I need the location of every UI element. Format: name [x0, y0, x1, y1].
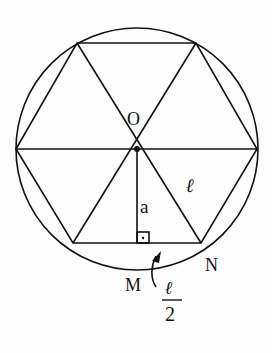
diagonal-top-left-to-bottom-right	[77, 43, 201, 243]
diagram-drawing	[0, 0, 272, 353]
hexagon-diagram: O a ℓ M N ℓ 2	[0, 0, 272, 353]
label-apothem-a: a	[140, 197, 148, 216]
label-point-m: M	[125, 276, 141, 294]
pointer-arrowhead	[152, 251, 161, 263]
label-half-side-denominator: 2	[165, 304, 175, 324]
diagonal-top-right-to-bottom-left	[73, 43, 196, 243]
label-side-l: ℓ	[186, 176, 194, 195]
center-point	[134, 146, 140, 152]
label-point-n: N	[205, 256, 218, 274]
label-center-o: O	[127, 110, 140, 128]
label-half-side-numerator: ℓ	[165, 279, 173, 297]
right-angle-dot	[142, 237, 144, 239]
